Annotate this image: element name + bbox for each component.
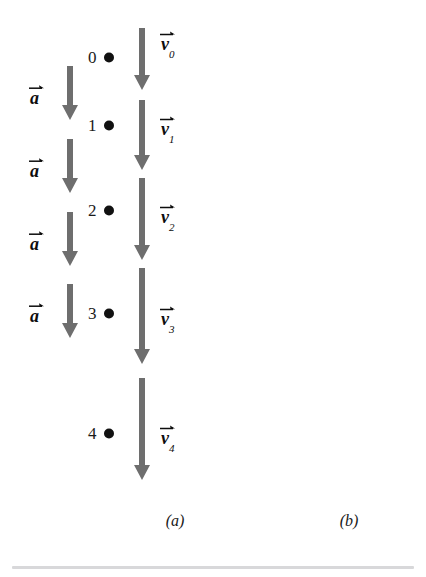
vector-symbol-letter: a (30, 162, 39, 180)
arrow-shaft (139, 100, 145, 157)
acceleration-arrow-a-panel-a (62, 284, 78, 338)
velocity-label-v3-panel-a: v3 (161, 304, 175, 331)
vector-subscript: 1 (169, 134, 175, 146)
arrow-shaft (67, 212, 73, 253)
vector-symbol-letter: a (30, 307, 39, 325)
velocity-label-v1-panel-a: v1 (161, 114, 175, 141)
velocity-label-v2-panel-a: v2 (161, 202, 175, 229)
position-marker-dot-icon (104, 52, 114, 62)
position-marker-0-panel-a: 0 (88, 49, 114, 66)
position-marker-1-panel-a: 1 (88, 117, 114, 134)
vector-subscript: 3 (169, 324, 175, 336)
velocity-label-v0-panel-a: v0 (161, 29, 175, 56)
vector-symbol-letter: a (30, 89, 39, 107)
arrow-shaft (139, 268, 145, 351)
position-marker-dot-icon (104, 120, 114, 130)
vector-symbol-letter: v (161, 310, 169, 328)
vector-symbol: v (161, 114, 169, 138)
position-marker-dot-icon (104, 205, 114, 215)
arrow-shaft (139, 28, 145, 77)
arrow-head (62, 323, 78, 338)
position-marker-number: 3 (88, 305, 97, 322)
velocity-arrow-v1-panel-a (134, 100, 150, 170)
position-marker-4-panel-a: 4 (88, 425, 114, 442)
panel-caption-b: (b) (340, 512, 359, 530)
panel-a: aaaav0v1v2v3v401234 (0, 0, 213, 540)
position-marker-2-panel-a: 2 (88, 202, 114, 219)
arrow-shaft (139, 178, 145, 247)
acceleration-label-a-panel-a: a (30, 156, 39, 180)
arrow-shaft (67, 284, 73, 325)
acceleration-label-a-panel-a: a (30, 83, 39, 107)
velocity-label-v4-panel-a: v4 (161, 423, 175, 450)
vector-symbol-letter: v (161, 35, 169, 53)
vector-symbol: v (161, 29, 169, 53)
arrow-head (62, 105, 78, 120)
arrow-shaft (139, 378, 145, 467)
position-marker-number: 0 (88, 49, 97, 66)
vector-symbol-letter: v (161, 429, 169, 447)
position-marker-number: 2 (88, 202, 97, 219)
vector-symbol: v (161, 202, 169, 226)
acceleration-label-a-panel-a: a (30, 229, 39, 253)
position-marker-number: 4 (88, 425, 97, 442)
panel-b: aaaav4v3v2v1v043210 (213, 0, 426, 540)
arrow-shaft (67, 139, 73, 180)
position-marker-dot-icon (104, 428, 114, 438)
vector-symbol: a (30, 83, 39, 107)
arrow-head (134, 75, 150, 90)
arrow-head (62, 178, 78, 193)
acceleration-arrow-a-panel-a (62, 139, 78, 193)
arrow-shaft (67, 66, 73, 107)
arrow-head (62, 251, 78, 266)
acceleration-arrow-a-panel-a (62, 212, 78, 266)
vector-symbol: v (161, 304, 169, 328)
vector-symbol: a (30, 156, 39, 180)
acceleration-label-a-panel-a: a (30, 301, 39, 325)
panel-caption-a: (a) (166, 512, 185, 530)
vector-symbol-letter: v (161, 208, 169, 226)
arrow-head (134, 155, 150, 170)
vector-subscript: 4 (169, 443, 175, 455)
vector-symbol: a (30, 229, 39, 253)
vector-symbol: a (30, 301, 39, 325)
vector-symbol-letter: v (161, 120, 169, 138)
arrow-head (134, 349, 150, 364)
bottom-divider (12, 566, 414, 569)
physics-figure: aaaav0v1v2v3v401234(a)aaaav4v3v2v1v04321… (0, 0, 426, 577)
vector-subscript: 2 (169, 222, 175, 234)
velocity-arrow-v4-panel-a (134, 378, 150, 480)
arrow-head (134, 465, 150, 480)
velocity-arrow-v3-panel-a (134, 268, 150, 364)
position-marker-dot-icon (104, 308, 114, 318)
position-marker-3-panel-a: 3 (88, 305, 114, 322)
arrow-head (134, 245, 150, 260)
acceleration-arrow-a-panel-a (62, 66, 78, 120)
vector-symbol-letter: a (30, 235, 39, 253)
position-marker-number: 1 (88, 117, 97, 134)
velocity-arrow-v2-panel-a (134, 178, 150, 260)
vector-symbol: v (161, 423, 169, 447)
velocity-arrow-v0-panel-a (134, 28, 150, 90)
vector-subscript: 0 (169, 49, 175, 61)
